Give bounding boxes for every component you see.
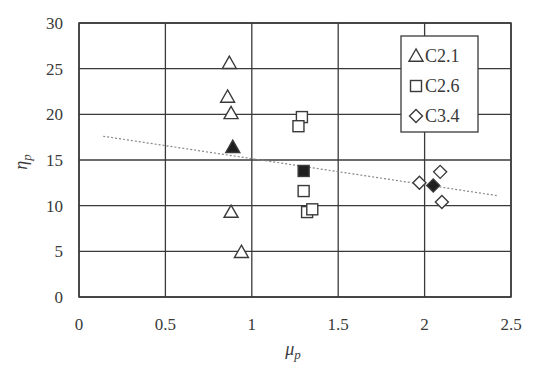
- mean-point-triangle-icon: [226, 140, 240, 152]
- y-tick-label: 20: [46, 105, 63, 124]
- y-tick-label: 0: [55, 288, 64, 307]
- x-tick-label: 0: [75, 315, 84, 334]
- mean-point-square-icon: [298, 165, 309, 176]
- x-tick-label: 2.5: [500, 315, 521, 334]
- data-point-diamond-icon: [435, 196, 448, 209]
- legend-label: C3.4: [425, 106, 460, 126]
- data-point-square-icon: [307, 204, 318, 215]
- legend: C2.1C2.6C3.4: [401, 36, 478, 132]
- legend-label: C2.1: [425, 46, 460, 66]
- y-tick-label: 30: [46, 14, 63, 33]
- data-point-triangle-icon: [224, 106, 238, 118]
- mean-point-diamond-icon: [427, 179, 440, 192]
- y-axis-ticks: 051015202530: [46, 14, 63, 307]
- y-tick-label: 15: [46, 151, 63, 170]
- data-point-triangle-icon: [221, 90, 235, 102]
- x-tick-label: 1.5: [328, 315, 349, 334]
- scatter-chart: 00.511.522.5 051015202530 μp ηp C2.1C2.6…: [0, 0, 536, 381]
- data-point-triangle-icon: [224, 205, 238, 217]
- x-tick-label: 0.5: [155, 315, 176, 334]
- data-point-square-icon: [298, 186, 309, 197]
- data-point-diamond-icon: [434, 165, 447, 178]
- legend-label: C2.6: [425, 76, 460, 96]
- x-axis-ticks: 00.511.522.5: [75, 315, 522, 334]
- y-tick-label: 25: [46, 60, 63, 79]
- y-tick-label: 10: [46, 197, 63, 216]
- legend-square-icon: [411, 81, 422, 92]
- data-point-square-icon: [293, 121, 304, 132]
- x-tick-label: 1: [248, 315, 257, 334]
- x-tick-label: 2: [420, 315, 429, 334]
- y-tick-label: 5: [55, 242, 64, 261]
- x-axis-label: μp: [284, 339, 301, 362]
- data-point-triangle-icon: [222, 56, 236, 68]
- y-axis-label: ηp: [11, 154, 34, 170]
